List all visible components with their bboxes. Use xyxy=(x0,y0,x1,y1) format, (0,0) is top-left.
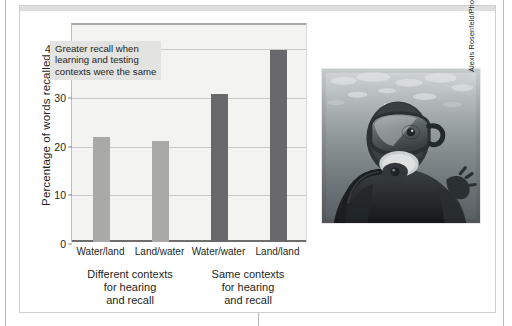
annotation-line-3: contexts were the same xyxy=(55,66,156,77)
page: Percentage of words recalled 010203040% … xyxy=(0,0,512,326)
group-label-line-3: and recall xyxy=(87,294,172,307)
annotation-line-2: learning and testing xyxy=(55,54,156,65)
group-label-line-3: and recall xyxy=(212,294,285,307)
scuba-diver-photo xyxy=(321,68,481,224)
y-axis-tick-mark xyxy=(68,195,72,196)
figure-container: Percentage of words recalled 010203040% … xyxy=(19,5,496,313)
annotation-callout: Greater recall when learning and testing… xyxy=(50,41,161,80)
bar-land-land xyxy=(270,50,287,242)
bar-land-water xyxy=(152,141,169,242)
y-axis-tick-label: 10 xyxy=(54,189,66,201)
page-column-tick xyxy=(258,313,259,326)
photo-credit: Alexis Rosenfeld/Photo Researchers, Inc. xyxy=(467,0,476,72)
annotation-line-1: Greater recall when xyxy=(55,43,156,54)
group-label-line-1: Different contexts xyxy=(87,268,172,281)
group-label-same-contexts: Same contextsfor hearingand recall xyxy=(212,268,285,308)
x-axis-tick-label: Land/water xyxy=(135,246,184,257)
y-axis-tick-label: 0 xyxy=(60,238,66,250)
group-label-line-2: for hearing xyxy=(212,281,285,294)
group-label-line-2: for hearing xyxy=(87,281,172,294)
group-label-line-1: Same contexts xyxy=(212,268,285,281)
x-axis-tick-label: Water/land xyxy=(77,246,125,257)
page-rule-left xyxy=(5,0,6,326)
y-axis-tick-label: 30 xyxy=(54,92,66,104)
bar-water-water xyxy=(211,94,228,242)
photo-figure: Alexis Rosenfeld/Photo Researchers, Inc. xyxy=(321,68,481,224)
bar-water-land xyxy=(93,137,110,242)
y-axis-tick-mark xyxy=(68,146,72,147)
y-axis-tick-mark xyxy=(68,98,72,99)
x-axis-tick-label: Land/land xyxy=(256,246,300,257)
group-label-different-contexts: Different contextsfor hearingand recall xyxy=(87,268,172,308)
y-axis-tick-mark xyxy=(68,244,72,245)
x-axis-tick-label: Water/water xyxy=(192,246,246,257)
y-axis-tick-label: 20 xyxy=(54,141,66,153)
page-rule-right xyxy=(503,0,504,326)
